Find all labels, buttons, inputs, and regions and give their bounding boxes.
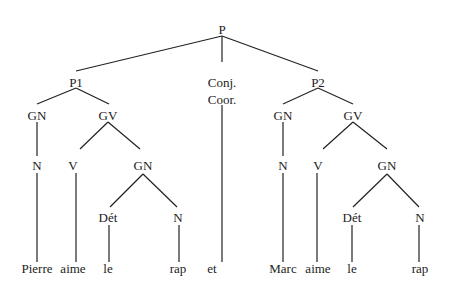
tree-node-det2: Dét xyxy=(343,210,362,225)
tree-node-n1: N xyxy=(32,158,41,173)
tree-node-w2: aime xyxy=(60,261,85,276)
tree-node-n2: N xyxy=(173,210,182,225)
tree-node-w7: aime xyxy=(305,261,330,276)
tree-node-v2: V xyxy=(313,158,322,173)
tree-node-conj2: Coor. xyxy=(208,92,237,107)
tree-edge xyxy=(323,122,353,149)
tree-node-w3: le xyxy=(103,261,112,276)
tree-node-w4: rap xyxy=(170,261,187,276)
tree-node-gv2: GV xyxy=(344,108,363,123)
tree-edge xyxy=(143,174,177,207)
tree-node-conj1: Conj. xyxy=(208,75,237,90)
tree-edge xyxy=(222,36,318,71)
tree-edge xyxy=(110,174,143,207)
tree-node-det1: Dét xyxy=(99,210,118,225)
tree-node-n4: N xyxy=(415,210,424,225)
tree-edge xyxy=(318,88,353,104)
tree-edge xyxy=(353,122,387,149)
tree-edge xyxy=(353,174,387,207)
tree-edge xyxy=(37,88,76,104)
tree-edge xyxy=(108,122,140,149)
tree-node-n3: N xyxy=(278,158,287,173)
tree-node-gn1: GN xyxy=(28,108,47,123)
tree-node-w5: et xyxy=(207,261,216,276)
tree-node-p: P xyxy=(218,22,225,37)
tree-node-w8: le xyxy=(347,261,356,276)
tree-node-gn4: GN xyxy=(378,158,397,173)
tree-node-w9: rap xyxy=(412,261,429,276)
syntax-tree-diagram: PP1Conj.Coor.P2GNGVNVGNDétNGNGVNVGNDétNP… xyxy=(0,0,460,288)
tree-edge xyxy=(76,36,222,71)
tree-node-v1: V xyxy=(68,158,77,173)
tree-node-gn3: GN xyxy=(274,108,293,123)
tree-edge xyxy=(76,88,109,104)
tree-node-gv1: GV xyxy=(99,108,118,123)
tree-node-w6: Marc xyxy=(269,261,296,276)
tree-node-w1: Pierre xyxy=(21,261,52,276)
tree-node-gn2: GN xyxy=(134,158,153,173)
tree-edges xyxy=(0,0,460,288)
tree-node-p1: P1 xyxy=(69,75,83,90)
tree-node-p2: P2 xyxy=(311,75,325,90)
tree-edge xyxy=(387,174,419,207)
tree-edge xyxy=(80,122,108,149)
tree-edge xyxy=(283,88,318,104)
